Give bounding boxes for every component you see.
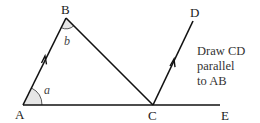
geometry-diagram: A B C D E a b Draw CD parallel to AB xyxy=(0,0,260,123)
point-label-e: E xyxy=(221,109,229,122)
point-label-b: B xyxy=(61,3,70,16)
point-label-a: A xyxy=(15,108,24,121)
angle-a-arc xyxy=(23,88,42,105)
point-label-d: D xyxy=(190,6,199,19)
angle-label-a: a xyxy=(44,84,50,96)
instruction-text: Draw CD parallel to AB xyxy=(197,44,245,89)
line-cd xyxy=(153,21,193,105)
line-bc xyxy=(66,18,153,105)
point-label-c: C xyxy=(148,109,157,122)
angle-label-b: b xyxy=(64,35,70,47)
